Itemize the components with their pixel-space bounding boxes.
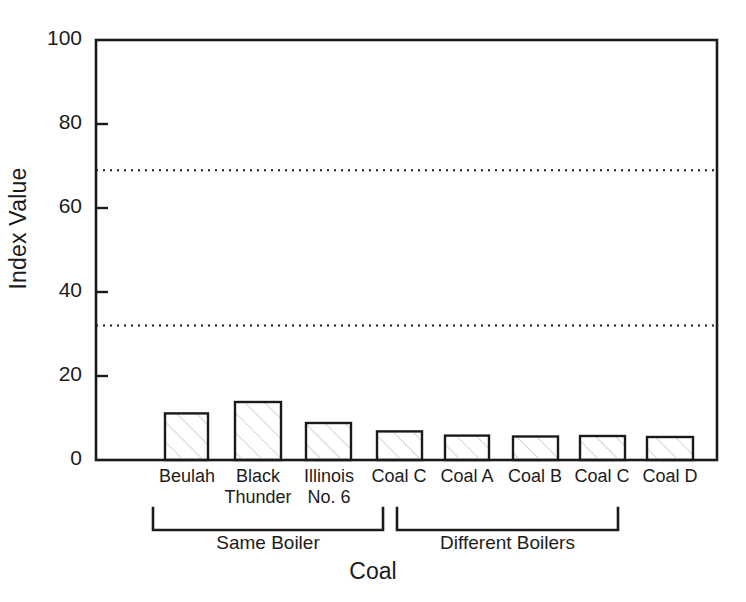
group-label-same-boiler: Same Boiler [153, 532, 383, 554]
x-axis-title: Coal [0, 558, 746, 585]
plot-area [0, 0, 746, 602]
bracket-same-boiler [153, 508, 383, 530]
bar-beulah [165, 413, 208, 460]
bar-chart-figure: Index Value 100 80 60 40 20 0 [0, 0, 746, 602]
bar-coal-c-same-boiler [377, 431, 422, 460]
axis-frame [96, 40, 717, 460]
bracket-different-boilers [397, 508, 618, 530]
bar-coal-a [445, 436, 489, 460]
bar-series [165, 402, 693, 460]
x-category-label-no-6: No. 6 [283, 487, 375, 508]
bar-coal-b [513, 437, 558, 461]
bar-black-thunder [235, 402, 281, 460]
y-axis-ticks [96, 124, 108, 376]
bar-coal-d [647, 437, 693, 460]
reference-lines [96, 170, 717, 325]
group-label-different-boilers: Different Boilers [397, 532, 618, 554]
x-category-label-coal-d: Coal D [624, 466, 716, 487]
group-brackets [153, 508, 618, 530]
bar-coal-c-different-boilers [580, 436, 625, 460]
bar-illinois-no-6 [306, 423, 351, 460]
